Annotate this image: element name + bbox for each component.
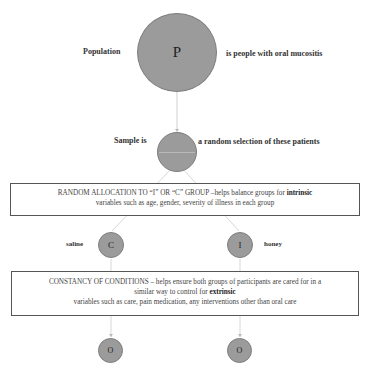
population-symbol: P — [173, 44, 181, 61]
outcome-intervention-node: O — [227, 338, 252, 363]
control-label: saline — [66, 240, 83, 248]
constancy-line1: CONSTANCY OF CONDITIONS – helps ensure b… — [12, 277, 358, 287]
random-allocation-line1: RANDOM ALLOCATION TO “I” OR “C” GROUP –h… — [11, 188, 359, 198]
sample-description: a random selection of these patients — [198, 137, 320, 146]
random-allocation-box: RANDOM ALLOCATION TO “I” OR “C” GROUP –h… — [10, 183, 360, 216]
sample-label: Sample is — [114, 136, 147, 145]
population-label: Population — [83, 47, 120, 56]
intervention-label: honey — [264, 240, 282, 248]
intrinsic-keyword: intrinsic — [287, 189, 313, 197]
outcome-control-node: O — [98, 338, 123, 363]
population-node: P — [137, 13, 217, 92]
sample-divider — [159, 152, 195, 153]
control-group-node: C — [98, 232, 124, 258]
random-allocation-line2: variables such as age, gender, severity … — [11, 198, 359, 208]
extrinsic-keyword: extrinsic — [209, 288, 235, 296]
intervention-group-node: I — [227, 232, 253, 258]
constancy-box: CONSTANCY OF CONDITIONS – helps ensure b… — [11, 271, 359, 316]
intervention-symbol: I — [239, 240, 242, 250]
population-description: is people with oral mucositis — [226, 49, 322, 58]
constancy-line3: variables such as care, pain medication,… — [12, 297, 358, 307]
control-symbol: C — [108, 240, 114, 250]
outcome-control-symbol: O — [108, 346, 114, 355]
sample-node — [157, 132, 197, 172]
outcome-intervention-symbol: O — [237, 346, 243, 355]
constancy-line2: similar way to control for extrinsic — [12, 287, 358, 297]
